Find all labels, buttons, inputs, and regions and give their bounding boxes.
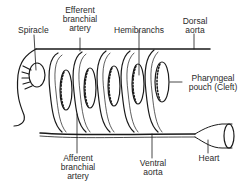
label-efferent-branchial-artery: Efferent branchial artery	[58, 6, 102, 33]
heart-shape	[195, 124, 232, 148]
label-afferent-branchial-artery: Afferent branchial artery	[56, 154, 100, 181]
spiracle-pouch	[29, 63, 45, 87]
label-line: artery	[58, 24, 102, 33]
label-line: artery	[56, 172, 100, 181]
label-line: pouch (Cleft)	[183, 83, 243, 92]
label-spiracle: Spiracle	[18, 26, 49, 35]
ventral-aorta-line	[40, 133, 195, 135]
label-hemibranchs: Hemibranchs	[114, 26, 164, 35]
label-ventral-aorta: Ventral aorta	[137, 159, 169, 177]
label-line: aorta	[137, 168, 169, 177]
label-pharyngeal-pouch: Pharyngeal pouch (Cleft)	[183, 74, 243, 92]
heart-chamber	[224, 124, 234, 148]
label-line: aorta	[180, 26, 210, 35]
label-heart: Heart	[196, 154, 222, 163]
label-dorsal-aorta: Dorsal aorta	[180, 17, 210, 35]
spiracle-outline	[14, 49, 36, 126]
